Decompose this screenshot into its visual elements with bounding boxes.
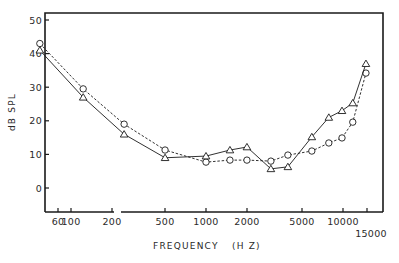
x-tick-label: 5000 (289, 216, 314, 227)
x-axis-units: (H Z) (232, 241, 261, 251)
y-tick-label: 50 (29, 15, 42, 26)
circle-marker-icon (268, 158, 274, 164)
y-axis-label: dB SPL (7, 93, 17, 131)
triangle-marker-icon (349, 99, 357, 105)
circle-marker-icon (80, 86, 86, 92)
x-tick-label: 10000 (327, 216, 359, 227)
frequency-response-chart: 01020304050 6010020050010002000500010000… (0, 0, 399, 263)
x-axis-label: FREQUENCY (153, 241, 219, 251)
triangle-marker-icon (338, 107, 346, 113)
plot-border (45, 13, 383, 212)
series-line (40, 50, 366, 169)
circle-marker-icon (227, 157, 233, 163)
x-tick-label: 200 (102, 216, 121, 227)
x-tick-label: 100 (61, 216, 80, 227)
circle-marker-icon (326, 140, 332, 146)
circle-marker-icon (285, 152, 291, 158)
x-tick-label: 1000 (193, 216, 218, 227)
series-triangles (36, 47, 370, 172)
triangle-marker-icon (243, 143, 251, 149)
circle-marker-icon (339, 135, 345, 141)
x-tick-label: 15000 (355, 228, 387, 239)
triangle-marker-icon (362, 60, 370, 66)
y-tick-label: 30 (29, 82, 42, 93)
series-circles (37, 40, 370, 165)
circle-marker-icon (121, 121, 127, 127)
circle-marker-icon (244, 157, 250, 163)
x-tick-label: 500 (155, 216, 174, 227)
circle-marker-icon (309, 148, 315, 154)
x-tick-label: 2000 (234, 216, 259, 227)
circle-marker-icon (350, 119, 356, 125)
circle-marker-icon (203, 159, 209, 165)
data-series (36, 40, 370, 171)
y-tick-label: 0 (36, 183, 42, 194)
plot-frame (45, 13, 383, 212)
y-tick-label: 10 (29, 149, 42, 160)
triangle-marker-icon (325, 114, 333, 120)
circle-marker-icon (162, 147, 168, 153)
y-tick-label: 20 (29, 115, 42, 126)
